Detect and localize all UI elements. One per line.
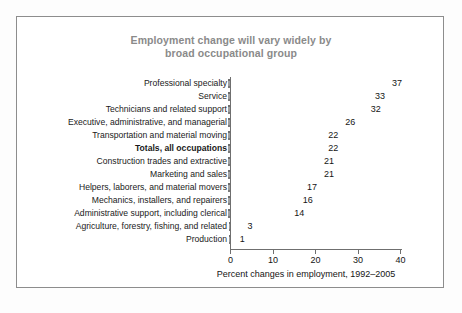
- chart-row-totals: Totals, all occupations 22: [17, 142, 445, 155]
- category-label: Technicians and related support: [17, 103, 227, 116]
- bar-wrapper: [231, 92, 371, 101]
- bar-wrapper: [231, 170, 320, 179]
- chart-row: Mechanics, installers, and repairers 16: [17, 194, 445, 207]
- bar-value-label: 16: [303, 194, 313, 207]
- bar-value-label: 22: [328, 142, 338, 155]
- bar-value-label: 17: [307, 181, 317, 194]
- x-axis-tick: [358, 250, 359, 254]
- y-axis-line: [230, 77, 231, 249]
- bar-value-label: 22: [328, 129, 338, 142]
- chart-row: Helpers, laborers, and material movers 1…: [17, 181, 445, 194]
- bar-wrapper: [231, 209, 291, 218]
- x-axis-tick-label: 10: [261, 255, 285, 266]
- x-axis-line: [230, 249, 402, 250]
- chart-frame: Employment change will vary widely by br…: [16, 16, 444, 288]
- bar-wrapper: [231, 183, 303, 192]
- category-label: Agriculture, forestry, fishing, and rela…: [17, 220, 227, 233]
- x-axis-tick: [230, 250, 231, 254]
- bar-value-label: 32: [371, 103, 381, 116]
- bar-value-label: 37: [392, 77, 402, 90]
- x-axis-tick-label: 40: [389, 255, 413, 266]
- x-axis-tick-label: 0: [219, 255, 243, 266]
- x-axis-tick: [273, 250, 274, 254]
- bar-wrapper: [231, 118, 342, 127]
- chart-row: Agriculture, forestry, fishing, and rela…: [17, 220, 445, 233]
- category-label: Construction trades and extractive: [17, 155, 227, 168]
- category-label: Administrative support, including cleric…: [17, 207, 227, 220]
- bar-wrapper: [231, 235, 236, 244]
- bar-wrapper: [231, 131, 325, 140]
- bar-value-label: 21: [324, 155, 334, 168]
- chart-row: Service 33: [17, 90, 445, 103]
- chart-row: Executive, administrative, and manageria…: [17, 116, 445, 129]
- category-label: Transportation and material moving: [17, 129, 227, 142]
- bar-value-label: 33: [375, 90, 385, 103]
- bar-wrapper: [231, 79, 388, 88]
- bar-chart-plot-area: Professional specialty 37 Service 33 Tec…: [17, 17, 445, 289]
- category-label: Executive, administrative, and manageria…: [17, 116, 227, 129]
- x-axis-tick: [400, 250, 401, 254]
- category-label: Service: [17, 90, 227, 103]
- bar-wrapper: [231, 144, 325, 153]
- chart-row: Construction trades and extractive 21: [17, 155, 445, 168]
- bar-value-label: 14: [294, 207, 304, 220]
- chart-row: Administrative support, including cleric…: [17, 207, 445, 220]
- category-label: Helpers, laborers, and material movers: [17, 181, 227, 194]
- chart-row: Marketing and sales 21: [17, 168, 445, 181]
- chart-row: Technicians and related support 32: [17, 103, 445, 116]
- bar-wrapper: [231, 222, 244, 231]
- bar-value-label: 26: [345, 116, 355, 129]
- bar-value-label: 3: [248, 220, 253, 233]
- bar-wrapper: [231, 105, 367, 114]
- category-label: Professional specialty: [17, 77, 227, 90]
- x-axis-tick-label: 20: [304, 255, 328, 266]
- category-label: Marketing and sales: [17, 168, 227, 181]
- chart-row: Professional specialty 37: [17, 77, 445, 90]
- category-label: Mechanics, installers, and repairers: [17, 194, 227, 207]
- scanned-page: Employment change will vary widely by br…: [0, 0, 462, 313]
- bar-value-label: 1: [240, 233, 245, 246]
- x-axis-tick: [315, 250, 316, 254]
- bar-wrapper: [231, 196, 299, 205]
- category-label-totals: Totals, all occupations: [17, 142, 227, 155]
- x-axis-tick-label: 30: [346, 255, 370, 266]
- chart-row: Transportation and material moving 22: [17, 129, 445, 142]
- chart-row: Production 1: [17, 233, 445, 246]
- x-axis-caption: Percent changes in employment, 1992–2005: [167, 269, 445, 279]
- category-label: Production: [17, 233, 227, 246]
- bar-wrapper: [231, 157, 320, 166]
- bar-value-label: 21: [324, 168, 334, 181]
